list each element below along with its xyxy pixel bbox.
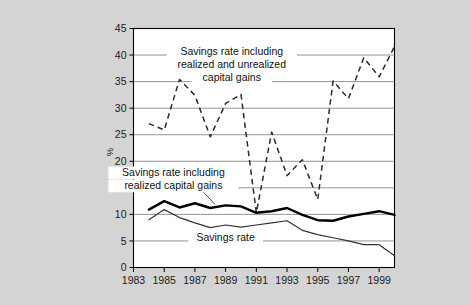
annotation-unrealized-line-2: capital gains — [203, 71, 261, 83]
y-axis-title: % — [104, 147, 115, 156]
annotation-realized-line-1: realized capital gains — [124, 179, 222, 191]
chart-figure: 051015202530354045 198319851987198919911… — [0, 0, 471, 305]
x-tick-label-1989: 1989 — [214, 274, 238, 286]
annotation-savings-rate: Savings rate — [188, 231, 263, 244]
y-tick-label-5: 5 — [121, 235, 127, 247]
x-tick-label-1985: 1985 — [153, 274, 177, 286]
line-chart-svg: 051015202530354045 198319851987198919911… — [0, 0, 471, 305]
x-tick-label-1991: 1991 — [245, 274, 269, 286]
annotation-savings-rate-line-0: Savings rate — [196, 231, 255, 243]
x-tick-label-1999: 1999 — [367, 274, 391, 286]
annotation-realized: Savings rate includingrealized capital g… — [108, 166, 238, 192]
x-tick-label-1983: 1983 — [122, 274, 146, 286]
y-tick-label-40: 40 — [115, 49, 127, 61]
annotation-unrealized-line-1: realized and unrealized — [177, 58, 286, 70]
x-tick-label-1995: 1995 — [306, 274, 330, 286]
y-tick-label-35: 35 — [115, 75, 127, 87]
y-tick-label-10: 10 — [115, 208, 127, 220]
y-tick-label-0: 0 — [121, 261, 127, 273]
y-tick-label-30: 30 — [115, 102, 127, 114]
annotation-unrealized-line-0: Savings rate including — [180, 45, 283, 57]
x-tick-label-1987: 1987 — [183, 274, 207, 286]
x-tick-label-1997: 1997 — [337, 274, 361, 286]
y-tick-label-25: 25 — [115, 128, 127, 140]
annotation-realized-line-0: Savings rate including — [122, 166, 225, 178]
x-tick-label-1993: 1993 — [275, 274, 299, 286]
y-tick-label-45: 45 — [115, 22, 127, 34]
